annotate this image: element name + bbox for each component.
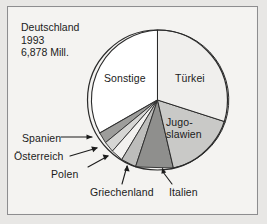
slice-label-tuerkei: Türkei xyxy=(175,73,205,85)
title-year: 1993 xyxy=(21,34,79,47)
slice-label-oesterreich: Österreich xyxy=(14,151,63,163)
arrow-spanien-head xyxy=(87,134,93,139)
slice-label-spanien: Spanien xyxy=(22,133,61,145)
slice-label-jugoslawien: Jugo- slawien xyxy=(166,117,202,140)
arrow-italien-head xyxy=(161,168,166,174)
slice-label-jugoslawien-line2: slawien xyxy=(166,129,202,141)
chart-title-block: Deutschland 1993 6,878 Mill. xyxy=(21,21,79,59)
slice-label-sonstige: Sonstige xyxy=(104,73,146,85)
slice-label-jugoslawien-line1: Jugo- xyxy=(166,117,202,129)
slice-label-griechenland: Griechenland xyxy=(90,187,154,199)
title-country: Deutschland xyxy=(21,21,79,34)
arrow-polen-head xyxy=(103,155,109,161)
pie-chart-figure: Deutschland 1993 6,878 Mill. Sonstige Tü… xyxy=(0,0,267,224)
slice-label-italien: Italien xyxy=(169,187,198,199)
arrow-italien xyxy=(163,172,172,184)
chart-area: Deutschland 1993 6,878 Mill. Sonstige Tü… xyxy=(0,0,267,224)
slice-label-polen: Polen xyxy=(51,169,78,181)
title-total: 6,878 Mill. xyxy=(21,46,79,59)
